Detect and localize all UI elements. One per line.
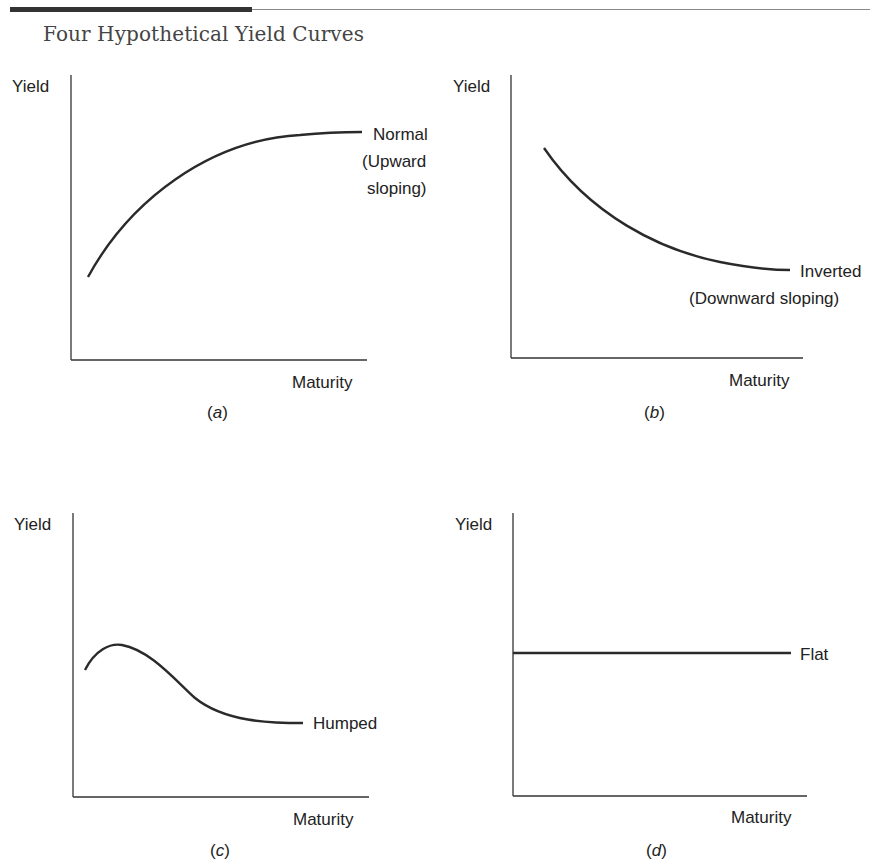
- y-axis-label: Yield: [14, 515, 51, 534]
- x-axis-label: Maturity: [731, 808, 792, 827]
- curve-label-line: Flat: [800, 645, 829, 664]
- x-axis-label: Maturity: [293, 810, 354, 829]
- y-axis-label: Yield: [12, 77, 49, 96]
- curve-label-line: Humped: [313, 714, 377, 733]
- curve-label-line: sloping): [367, 179, 427, 198]
- curve-label-line: (Upward: [362, 152, 426, 171]
- figure-canvas: Yield Normal (Upward sloping) Maturity (…: [0, 0, 881, 861]
- panel-d: Yield Flat Maturity (d): [455, 513, 829, 860]
- x-axis-label: Maturity: [729, 371, 790, 390]
- humped-curve: [85, 645, 303, 723]
- curve-label-line: Inverted: [800, 262, 861, 281]
- curve-label-line: Normal: [373, 125, 428, 144]
- inverted-curve: [544, 148, 790, 270]
- panel-c: Yield Humped Maturity (c): [14, 513, 377, 860]
- normal-curve: [88, 132, 362, 277]
- curve-label-line: (Downward sloping): [689, 289, 839, 308]
- y-axis-label: Yield: [455, 515, 492, 534]
- panel-caption: (b): [644, 403, 665, 422]
- panel-caption: (d): [646, 841, 667, 860]
- panel-b: Yield Inverted (Downward sloping) Maturi…: [453, 75, 861, 422]
- panel-a: Yield Normal (Upward sloping) Maturity (…: [12, 75, 428, 422]
- x-axis-label: Maturity: [292, 373, 353, 392]
- y-axis-label: Yield: [453, 77, 490, 96]
- panel-caption: (c): [210, 841, 230, 860]
- panel-caption: (a): [207, 403, 228, 422]
